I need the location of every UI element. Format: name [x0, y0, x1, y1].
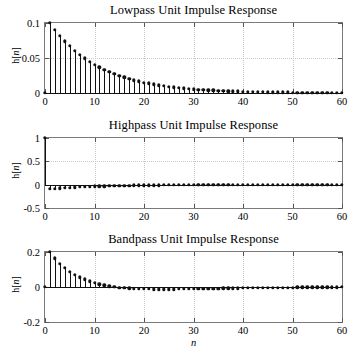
data-point-marker: [296, 183, 299, 186]
data-point-marker: [187, 87, 190, 90]
data-point-marker: [330, 183, 333, 186]
y-tick-label: 0: [2, 88, 40, 99]
stem-line: [154, 84, 155, 93]
data-point-marker: [152, 184, 155, 187]
data-point-marker: [118, 184, 121, 187]
data-point-marker: [98, 282, 101, 285]
data-point-marker: [43, 91, 46, 94]
data-point-marker: [202, 183, 205, 186]
stem-line: [80, 55, 81, 93]
data-point-marker: [202, 88, 205, 91]
data-point-marker: [157, 183, 160, 186]
x-tick-label: 20: [139, 325, 150, 336]
panel-highpass: Highpass Unit Impulse Response h[n] 0102…: [0, 115, 362, 232]
data-point-marker: [132, 287, 135, 290]
data-point-marker: [256, 286, 259, 289]
stem-line: [144, 83, 145, 94]
stem-line: [55, 258, 56, 287]
data-point-marker: [197, 183, 200, 186]
data-point-marker: [320, 285, 323, 288]
stem-line: [95, 65, 96, 93]
x-tick-label: 60: [337, 211, 348, 222]
data-point-marker: [182, 183, 185, 186]
data-point-marker: [58, 34, 61, 37]
data-point-marker: [192, 183, 195, 186]
data-point-marker: [137, 287, 140, 290]
x-tick-label: 10: [89, 325, 100, 336]
data-point-marker: [113, 72, 116, 75]
data-point-marker: [53, 187, 56, 190]
data-point-marker: [118, 286, 121, 289]
stem-line: [99, 67, 100, 93]
data-point-marker: [68, 44, 71, 47]
data-point-marker: [63, 39, 66, 42]
plot-area-highpass: [44, 137, 343, 209]
x-tick: [194, 23, 195, 27]
data-point-marker: [162, 183, 165, 186]
data-point-marker: [221, 183, 224, 186]
data-point-marker: [53, 257, 56, 260]
stem-line: [75, 51, 76, 93]
gridline-vertical: [243, 138, 244, 208]
x-tick: [293, 138, 294, 142]
data-point-marker: [197, 287, 200, 290]
y-tick-label: -0.5: [2, 203, 40, 214]
figure-stem-plots: Lowpass Unit Impulse Response h[n] 01020…: [0, 0, 362, 348]
data-point-marker: [286, 286, 289, 289]
data-point-marker: [177, 86, 180, 89]
x-tick: [243, 138, 244, 142]
data-point-marker: [83, 185, 86, 188]
data-point-marker: [98, 66, 101, 69]
data-point-marker: [226, 287, 229, 290]
gridline-vertical: [194, 138, 195, 208]
y-tick-label: 0: [2, 282, 40, 293]
data-point-marker: [306, 286, 309, 289]
data-point-marker: [192, 287, 195, 290]
x-tick: [144, 138, 145, 142]
data-point-marker: [127, 287, 130, 290]
x-tick-label: 60: [337, 325, 348, 336]
data-point-marker: [88, 60, 91, 63]
data-point-marker: [88, 185, 91, 188]
data-point-marker: [187, 183, 190, 186]
y-tick-label: 1: [2, 133, 40, 144]
data-point-marker: [83, 57, 86, 60]
data-point-marker: [276, 183, 279, 186]
x-tick: [342, 318, 343, 322]
y-tick: [45, 208, 49, 209]
data-point-marker: [236, 183, 239, 186]
data-point-marker: [142, 184, 145, 187]
x-tick-label: 40: [238, 211, 249, 222]
data-point-marker: [58, 262, 61, 265]
data-point-marker: [226, 183, 229, 186]
data-point-marker: [217, 183, 220, 186]
x-tick-label: 20: [139, 96, 150, 107]
y-tick: [45, 322, 49, 323]
data-point-marker: [142, 287, 145, 290]
gridline-vertical: [293, 138, 294, 208]
x-tick: [342, 138, 343, 142]
data-point-marker: [217, 89, 220, 92]
x-tick: [293, 204, 294, 208]
data-point-marker: [246, 183, 249, 186]
data-point-marker: [325, 183, 328, 186]
data-point-marker: [177, 183, 180, 186]
data-point-marker: [246, 286, 249, 289]
data-point-marker: [256, 183, 259, 186]
data-point-marker: [122, 286, 125, 289]
data-point-marker: [68, 270, 71, 273]
x-tick: [95, 23, 96, 27]
x-tick-label: 50: [287, 96, 298, 107]
gridline-vertical: [144, 138, 145, 208]
data-point-marker: [88, 280, 91, 283]
x-tick: [293, 318, 294, 322]
x-tick-label: 20: [139, 211, 150, 222]
x-tick: [95, 252, 96, 256]
data-point-marker: [281, 183, 284, 186]
data-point-marker: [127, 77, 130, 80]
data-point-marker: [236, 287, 239, 290]
data-point-marker: [162, 288, 165, 291]
data-point-marker: [340, 183, 343, 186]
data-point-marker: [330, 285, 333, 288]
data-point-marker: [271, 286, 274, 289]
